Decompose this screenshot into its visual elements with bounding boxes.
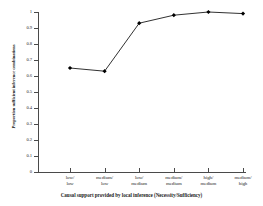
data-point-marker (206, 10, 210, 14)
chart-figure: Proportion sufficient inference combinat… (0, 0, 263, 206)
data-point-marker (68, 66, 72, 70)
data-point-marker (241, 12, 245, 16)
plot-area (0, 0, 263, 206)
data-series-line (70, 12, 243, 71)
x-axis-title: Causal support provided by local inferen… (0, 192, 263, 198)
data-point-marker (172, 13, 176, 17)
